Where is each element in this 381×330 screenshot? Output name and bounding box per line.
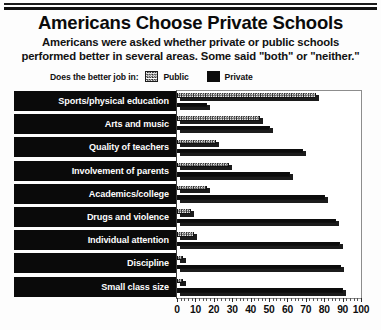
axis-tick [284,298,285,301]
axis-tick [232,298,233,302]
axis-tick [306,298,307,302]
axis-tick [214,298,215,302]
axis-tick [295,298,296,301]
chart-row: Involvement of parents [8,160,373,183]
bar-public [177,255,186,263]
chart-row: Individual attention [8,229,373,252]
category-label-box: Discipline [14,253,176,273]
axis-tick [236,298,237,301]
legend-label-public: Public [163,72,188,82]
axis-tick [302,298,303,301]
category-label-box: Small class size [14,277,176,297]
axis-tick [195,298,196,302]
bar-private [177,194,328,202]
bar-private [177,287,346,295]
bar-public [177,162,232,170]
private-swatch-icon [207,71,220,82]
axis-tick [240,298,241,301]
category-label: Quality of teachers [89,142,169,152]
x-axis-labels: 0102030405060708090100 [168,304,381,320]
axis-tick-label: 0 [174,304,179,315]
top-rule-2 [4,7,377,10]
axis-tick-label: 90 [337,304,348,315]
public-swatch-icon [145,71,158,82]
category-label-box: Sports/physical education [14,91,176,111]
bar-public [177,278,186,286]
axis-tick-label: 40 [245,304,256,315]
axis-tick [361,298,362,302]
axis-tick [273,298,274,301]
bar-private [177,241,343,249]
chart-title: Americans Choose Private Schools [0,12,381,34]
category-label: Involvement of parents [72,166,169,176]
category-label: Small class size [101,282,169,292]
legend-prompt: Does the better job in: [50,72,138,82]
plot-area: Sports/physical educationArts and musicQ… [8,90,373,302]
chart-subtitle: Americans were asked whether private or … [0,36,381,63]
axis-tick [199,298,200,301]
bar-rows: Sports/physical educationArts and musicQ… [8,90,373,299]
axis-tick [280,298,281,301]
axis-tick [317,298,318,301]
bar-public [177,92,319,100]
category-label-box: Arts and music [14,114,176,134]
top-rule-1 [4,3,377,5]
category-label-box: Academics/college [14,184,176,204]
axis-tick [251,298,252,302]
bar-public [177,208,194,216]
axis-tick-label: 10 [190,304,201,315]
axis-tick [254,298,255,301]
axis-tick [188,298,189,301]
bar-public [177,231,197,239]
bar-private [177,148,306,156]
axis-tick [335,298,336,301]
chart-row: Sports/physical education [8,90,373,113]
category-label: Individual attention [88,235,169,245]
axis-tick [339,298,340,301]
axis-tick [269,298,270,302]
axis-tick-label: 100 [353,304,369,315]
axis-tick [225,298,226,301]
chart-row: Academics/college [8,183,373,206]
axis-tick [313,298,314,301]
bar-private [177,218,339,226]
axis-tick [276,298,277,301]
axis-tick [262,298,263,301]
category-label: Sports/physical education [58,96,169,106]
axis-tick [217,298,218,301]
axis-tick-label: 30 [227,304,238,315]
axis-tick-label: 70 [300,304,311,315]
chart-row: Discipline [8,252,373,275]
axis-tick [287,298,288,302]
axis-tick [203,298,204,301]
chart-legend: Does the better job in: Public Private [50,71,271,82]
chart-row: Quality of teachers [8,136,373,159]
chart-row: Small class size [8,276,373,299]
axis-tick [343,298,344,302]
axis-tick [328,298,329,301]
axis-tick [177,298,178,302]
axis-tick [291,298,292,301]
legend-label-private: Private [225,72,253,82]
axis-tick-label: 20 [208,304,219,315]
bar-public [177,115,263,123]
axis-tick [346,298,347,301]
bar-private [177,171,293,179]
axis-tick-label: 60 [282,304,293,315]
legend-item-public: Public [145,71,188,82]
category-label: Academics/college [89,189,169,199]
axis-tick [324,298,325,302]
axis-tick [184,298,185,301]
category-label-box: Quality of teachers [14,137,176,157]
axis-tick [247,298,248,301]
axis-tick [221,298,222,301]
category-label: Discipline [127,258,169,268]
category-label-box: Drugs and violence [14,207,176,227]
axis-tick [357,298,358,301]
axis-tick-label: 80 [319,304,330,315]
axis-tick [309,298,310,301]
bar-private [177,102,210,110]
legend-item-private: Private [207,71,253,82]
axis-tick [229,298,230,301]
axis-tick [243,298,244,301]
